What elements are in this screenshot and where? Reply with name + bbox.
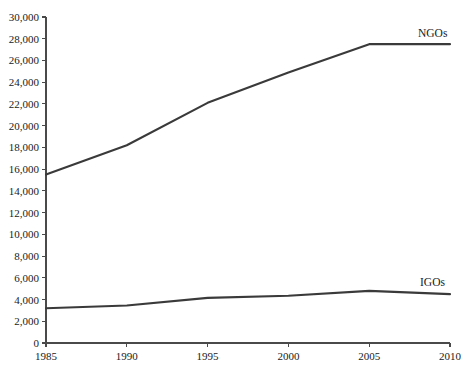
- chart-container: 02,0004,0006,0008,00010,00012,00014,0001…: [0, 0, 467, 374]
- y-axis-tick-label: 18,000: [9, 142, 39, 153]
- x-axis-tick-label: 2005: [358, 351, 380, 362]
- chart-plot-area: [0, 0, 467, 374]
- y-axis-tick-label: 2,000: [14, 316, 39, 327]
- series-label-ngos: NGOs: [418, 27, 447, 39]
- y-axis-tick-label: 30,000: [9, 12, 39, 23]
- x-axis-tick-label: 2010: [439, 351, 461, 362]
- chart-axes: [46, 17, 450, 343]
- y-axis-tick-label: 0: [34, 338, 40, 349]
- x-axis-tick-label: 1995: [197, 351, 219, 362]
- series-line-igos: [46, 291, 450, 308]
- y-axis-tick-label: 8,000: [14, 251, 39, 262]
- y-axis-tick-label: 10,000: [9, 229, 39, 240]
- x-axis-ticks: [46, 343, 450, 347]
- y-axis-tick-label: 26,000: [9, 55, 39, 66]
- y-axis-tick-label: 28,000: [9, 33, 39, 44]
- y-axis-tick-label: 20,000: [9, 120, 39, 131]
- x-axis-tick-label: 1990: [116, 351, 138, 362]
- y-axis-tick-label: 14,000: [9, 185, 39, 196]
- chart-series-lines: [46, 44, 450, 308]
- y-axis-ticks: [42, 17, 46, 343]
- y-axis-tick-label: 6,000: [14, 272, 39, 283]
- series-label-igos: IGOs: [420, 276, 445, 288]
- y-axis-tick-label: 4,000: [14, 294, 39, 305]
- y-axis-tick-label: 24,000: [9, 77, 39, 88]
- x-axis-tick-label: 2000: [277, 351, 299, 362]
- y-axis-tick-label: 16,000: [9, 164, 39, 175]
- x-axis-tick-label: 1985: [35, 351, 57, 362]
- y-axis-tick-label: 22,000: [9, 98, 39, 109]
- series-line-ngos: [46, 44, 450, 174]
- y-axis-tick-label: 12,000: [9, 207, 39, 218]
